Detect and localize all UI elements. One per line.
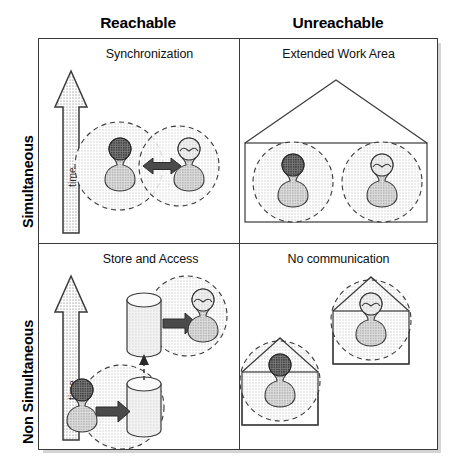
cell-synchronization: Synchronization time [39,39,238,242]
cell-store-and-access: Store and Access time [39,244,238,449]
column-header-reachable: Reachable [38,14,238,32]
cell-extended-work-area: Extended Work Area [240,39,437,242]
scene-synchronization [39,39,238,242]
database-cylinder-icon [127,377,161,437]
scene-store-and-access [39,244,238,449]
diagram-root: Reachable Unreachable Simultaneous Non S… [0,0,456,475]
column-header-unreachable: Unreachable [238,14,438,32]
matrix-frame: Synchronization time [38,38,438,450]
row-label-simultaneous: Simultaneous [20,135,36,228]
scene-extended-work-area [240,39,437,242]
row-label-non-simultaneous: Non Simultaneous [20,320,36,444]
scene-no-communication [240,244,437,449]
database-cylinder-icon [127,293,161,357]
cell-no-communication: No communication [240,244,437,449]
